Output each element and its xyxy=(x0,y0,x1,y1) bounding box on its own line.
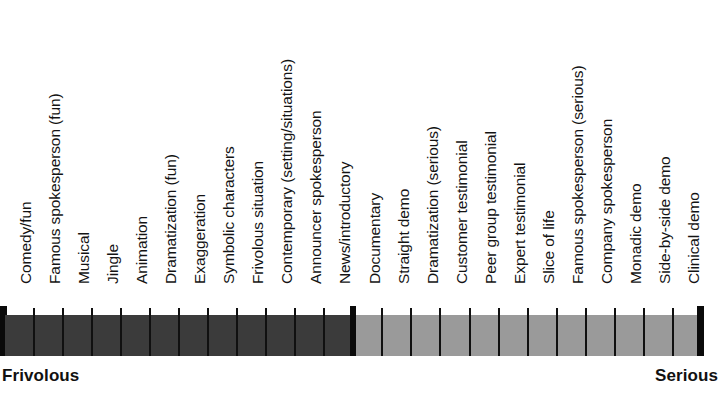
spectrum-cell xyxy=(34,315,63,356)
category-label: Slice of life xyxy=(530,0,558,284)
spectrum-cell xyxy=(586,315,615,356)
category-label-text: Contemporary (setting/situations) xyxy=(279,59,295,284)
category-label-text: Dramatization (fun) xyxy=(163,154,179,284)
scale-end-cap-right xyxy=(697,306,704,356)
category-label-text: Documentary xyxy=(367,193,383,284)
category-label: Frivolous situation xyxy=(239,0,267,284)
category-label-text: Peer group testimonial xyxy=(483,131,499,284)
category-label: Famous spokesperson (serious) xyxy=(559,0,587,284)
category-label: Customer testimonial xyxy=(443,0,471,284)
category-label: Straight demo xyxy=(385,0,413,284)
category-label-column: Comedy/funFamous spokesperson (fun)Music… xyxy=(0,0,724,312)
category-label: Peer group testimonial xyxy=(472,0,500,284)
spectrum-cell xyxy=(644,315,673,356)
category-label-text: Dramatization (serious) xyxy=(425,126,441,284)
category-label-text: News/introductory xyxy=(337,162,353,284)
category-label-text: Clinical demo xyxy=(686,192,702,284)
category-label-text: Customer testimonial xyxy=(454,140,470,284)
spectrum-cell xyxy=(237,315,266,356)
category-label: News/introductory xyxy=(326,0,354,284)
spectrum-cell xyxy=(411,315,440,356)
spectrum-cell xyxy=(528,315,557,356)
spectrum-cell xyxy=(63,315,92,356)
category-label: Side-by-side demo xyxy=(646,0,674,284)
spectrum-cell xyxy=(266,315,295,356)
category-label: Symbolic characters xyxy=(210,0,238,284)
spectrum-cell xyxy=(382,315,411,356)
spectrum-cell xyxy=(150,315,179,356)
category-label-text: Monadic demo xyxy=(628,184,644,284)
category-label-text: Frivolous situation xyxy=(250,161,266,284)
spectrum-cell xyxy=(440,315,469,356)
category-label: Dramatization (serious) xyxy=(414,0,442,284)
spectrum-cell xyxy=(470,315,499,356)
spectrum-cell xyxy=(179,315,208,356)
category-label: Contemporary (setting/situations) xyxy=(268,0,296,284)
spectrum-cell xyxy=(353,315,382,356)
category-label-text: Famous spokesperson (fun) xyxy=(47,94,63,284)
category-label-text: Expert testimonial xyxy=(512,163,528,284)
category-label: Exaggeration xyxy=(181,0,209,284)
anchor-label-frivolous: Frivolous xyxy=(2,366,79,386)
category-label: Announcer spokesperson xyxy=(297,0,325,284)
category-label: Documentary xyxy=(356,0,384,284)
spectrum-cell xyxy=(92,315,121,356)
category-label-text: Comedy/fun xyxy=(18,201,34,284)
spectrum-cell xyxy=(499,315,528,356)
spectrum-cell xyxy=(5,315,34,356)
category-label-text: Musical xyxy=(76,232,92,284)
category-label-text: Animation xyxy=(134,216,150,284)
category-label: Monadic demo xyxy=(617,0,645,284)
category-label-text: Company spokesperson xyxy=(599,119,615,284)
category-label-text: Slice of life xyxy=(541,210,557,284)
category-label: Company spokesperson xyxy=(588,0,616,284)
category-label-text: Side-by-side demo xyxy=(657,156,673,284)
anchor-label-serious: Serious xyxy=(655,366,718,386)
category-label: Musical xyxy=(65,0,93,284)
category-label-text: Exaggeration xyxy=(192,194,208,284)
spectrum-cell xyxy=(615,315,644,356)
category-label: Clinical demo xyxy=(675,0,703,284)
category-label-text: Announcer spokesperson xyxy=(308,110,324,284)
category-label: Jingle xyxy=(94,0,122,284)
category-label: Dramatization (fun) xyxy=(152,0,180,284)
tone-spectrum-bar xyxy=(5,315,702,356)
executional-tone-spectrum-figure: Comedy/funFamous spokesperson (fun)Music… xyxy=(0,0,724,400)
category-label: Famous spokesperson (fun) xyxy=(36,0,64,284)
spectrum-cell xyxy=(121,315,150,356)
category-label: Expert testimonial xyxy=(501,0,529,284)
category-label: Animation xyxy=(123,0,151,284)
category-label-text: Famous spokesperson (serious) xyxy=(570,66,586,285)
spectrum-cell xyxy=(208,315,237,356)
spectrum-cell xyxy=(324,315,353,356)
category-label-text: Straight demo xyxy=(396,189,412,284)
category-label: Comedy/fun xyxy=(7,0,35,284)
category-label-text: Jingle xyxy=(105,244,121,284)
spectrum-cell xyxy=(557,315,586,356)
spectrum-cell xyxy=(295,315,324,356)
category-label-text: Symbolic characters xyxy=(221,146,237,284)
